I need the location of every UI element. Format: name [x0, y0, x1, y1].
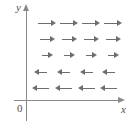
arrow-shaft — [38, 23, 52, 24]
arrow-head-icon — [78, 85, 83, 91]
arrow-head-icon — [95, 20, 100, 26]
arrow-shaft — [60, 23, 74, 24]
origin-label: 0 — [17, 103, 23, 114]
arrow-head-icon — [48, 52, 53, 58]
arrow-head-icon — [94, 36, 99, 42]
arrow-head-icon — [100, 85, 105, 91]
arrow-head-icon — [32, 85, 37, 91]
arrow-head-icon — [57, 69, 62, 75]
x-axis-line — [14, 100, 120, 101]
y-axis-label: y — [16, 2, 21, 13]
arrow-head-icon — [73, 20, 78, 26]
arrow-shaft — [61, 72, 70, 73]
arrow-head-icon — [80, 69, 85, 75]
arrow-shaft — [82, 88, 95, 89]
arrow-head-icon — [34, 69, 39, 75]
arrow-shaft — [82, 23, 96, 24]
arrow-head-icon — [70, 52, 75, 58]
arrow-head-icon — [116, 36, 121, 42]
arrow-head-icon — [50, 36, 55, 42]
arrow-head-icon — [102, 69, 107, 75]
y-axis-arrowhead-icon — [23, 4, 29, 11]
arrow-shaft — [38, 72, 47, 73]
arrow-shaft — [36, 88, 49, 89]
arrow-shaft — [59, 88, 72, 89]
vector-field-figure: y x 0 — [0, 0, 131, 128]
arrow-head-icon — [51, 20, 56, 26]
arrow-head-icon — [55, 85, 60, 91]
arrow-shaft — [84, 72, 93, 73]
arrow-head-icon — [92, 52, 97, 58]
arrow-shaft — [104, 88, 117, 89]
x-axis-label: x — [121, 104, 126, 115]
arrow-shaft — [104, 23, 118, 24]
x-axis-arrowhead-icon — [118, 97, 125, 103]
arrow-shaft — [106, 72, 115, 73]
arrow-head-icon — [114, 52, 119, 58]
y-axis-line — [26, 9, 27, 121]
arrow-head-icon — [72, 36, 77, 42]
arrow-head-icon — [117, 20, 122, 26]
